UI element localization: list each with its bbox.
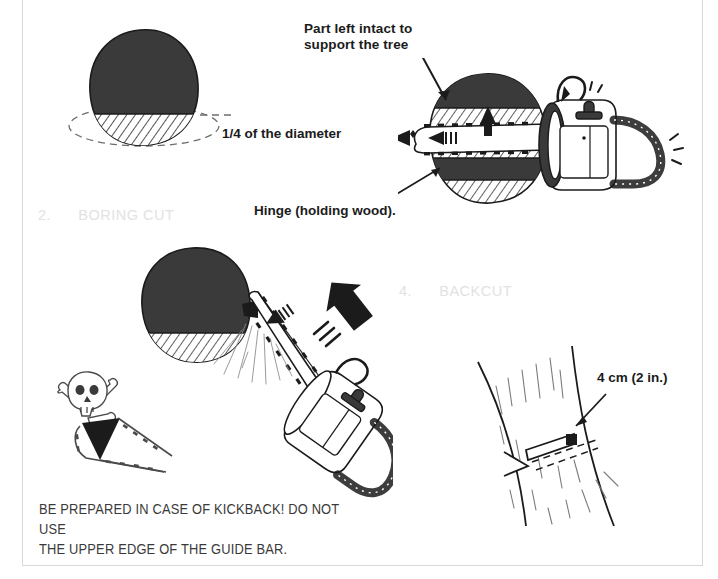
label-quarter-of-diameter: 1/4 of the diameter: [222, 126, 341, 142]
document-page: Part left intact to support the tree 1/4…: [0, 0, 718, 579]
kickback-warning-text: BE PREPARED IN CASE OF KICKBACK! DO NOT …: [39, 500, 343, 560]
label-hinge-holding-wood: Hinge (holding wood).: [254, 203, 396, 219]
page-frame: [22, 0, 703, 566]
step-heading-backcut: 4. BACKCUT: [399, 283, 512, 299]
step-heading-boring-cut: 2. BORING CUT: [38, 207, 174, 223]
label-part-left-intact: Part left intact to support the tree: [304, 21, 412, 54]
label-measurement-4cm: 4 cm (2 in.): [597, 370, 668, 386]
